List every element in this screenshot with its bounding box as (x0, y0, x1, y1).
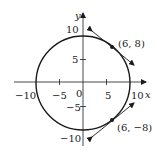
y-tick-label: 10 (66, 24, 79, 35)
point-label-lower: (6, −8) (117, 122, 152, 133)
x-tick-label: 10 (131, 90, 144, 101)
y-tick-label: 5 (72, 54, 78, 65)
y-tick-label: −5 (66, 102, 81, 113)
x-tick-label: −10 (15, 90, 36, 101)
x-tick-label: 5 (105, 90, 111, 101)
point-label-upper: (6, 8) (118, 38, 145, 49)
x-tick-label: 0 (76, 88, 82, 99)
y-tick-label: −10 (60, 133, 81, 144)
point-6-8 (110, 45, 114, 49)
y-axis-label: y (74, 10, 81, 21)
x-tick-label: −5 (52, 90, 67, 101)
x-axis-label: x (145, 89, 151, 100)
circle-tangent-diagram: y x −10 −5 0 5 10 10 5 −5 −10 (6, 8) (6,… (0, 0, 157, 152)
point-6-neg8 (110, 118, 114, 122)
